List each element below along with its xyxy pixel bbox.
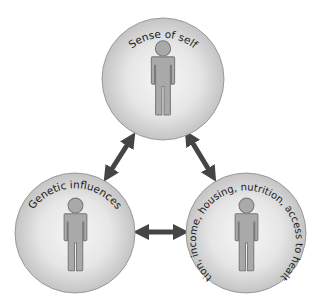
node-genetic-influences: Genetic influences [15,173,135,293]
arrow-top-right [189,137,212,175]
node-sense-of-self: Sense of self [102,18,224,140]
diagram-svg: Sense of self Genetic influences Educati… [0,0,319,305]
diagram-canvas: Sense of self Genetic influences Educati… [0,0,319,305]
arrow-top-left [108,139,131,175]
